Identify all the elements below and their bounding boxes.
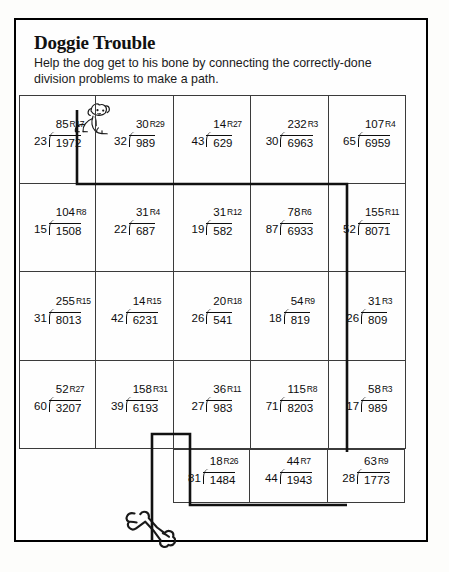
quotient: 63 xyxy=(364,455,377,467)
divisor: 26 xyxy=(346,306,359,324)
division-bracket: 98930R29 xyxy=(129,129,155,149)
remainder: R31 xyxy=(153,384,168,394)
division-problem-r4c5: 1798958R3 xyxy=(329,394,405,414)
quotient: 85 xyxy=(56,118,69,130)
remainder: R11 xyxy=(227,384,241,394)
divisor: 44 xyxy=(265,466,278,484)
divisor: 15 xyxy=(34,217,47,235)
grid-cell-r3-c5[interactable]: 2680931R3 xyxy=(329,272,406,361)
division-bracket: 80931R3 xyxy=(361,306,387,326)
grid-cell-r3-c2[interactable]: 42623114R15 xyxy=(96,272,173,361)
remainder: R12 xyxy=(227,207,242,217)
grid-cell-r3-c3[interactable]: 2654120R18 xyxy=(174,272,251,361)
remainder: R3 xyxy=(308,119,318,129)
division-bracket: 62914R27 xyxy=(206,129,232,149)
dividend: 1508 xyxy=(49,223,82,237)
dividend: 6963 xyxy=(280,135,313,149)
dividend: 3207 xyxy=(49,400,82,414)
grid-cell-r2-c4[interactable]: 87693378R6 xyxy=(251,184,328,273)
bottom-cell-3[interactable]: 28177363R9 xyxy=(328,449,405,503)
dividend: 1943 xyxy=(280,472,313,486)
grid-cell-r2-c5[interactable]: 528071155R11 xyxy=(329,184,406,273)
division-bracket: 1508104R8 xyxy=(49,217,82,237)
grid-cell-r3-c1[interactable]: 318013255R15 xyxy=(19,272,96,361)
grid-cell-r3-c4[interactable]: 1881954R9 xyxy=(251,272,328,361)
grid-cell-r1-c5[interactable]: 656959107R4 xyxy=(329,95,406,184)
division-problem-b3: 28177363R9 xyxy=(328,466,404,486)
quotient: 115 xyxy=(287,383,305,395)
grid-cell-r1-c2[interactable]: 3298930R29 xyxy=(96,95,173,184)
remainder: R3 xyxy=(382,384,392,394)
divisor: 87 xyxy=(266,217,279,235)
dividend: 582 xyxy=(206,223,232,237)
quotient: 107 xyxy=(365,118,384,130)
division-problem-r1c3: 4362914R27 xyxy=(174,129,250,149)
grid-cell-r2-c2[interactable]: 2268731R4 xyxy=(96,184,173,273)
remainder: R17 xyxy=(70,119,85,129)
quotient-answer: 232R3 xyxy=(287,118,317,130)
grid-cell-r4-c3[interactable]: 2798336R11 xyxy=(174,361,251,450)
division-bracket: 8071155R11 xyxy=(358,217,391,237)
grid-cell-r1-c3[interactable]: 4362914R27 xyxy=(174,95,251,184)
page-title: Doggie Trouble xyxy=(34,32,155,54)
grid-cell-r1-c4[interactable]: 306963232R3 xyxy=(251,95,328,184)
quotient-answer: 14R27 xyxy=(213,118,242,130)
grid-cell-r4-c4[interactable]: 718203115R8 xyxy=(251,361,328,450)
division-problem-r3c5: 2680931R3 xyxy=(329,306,405,326)
grid-cell-r2-c1[interactable]: 151508104R8 xyxy=(19,184,96,273)
dividend: 989 xyxy=(361,400,387,414)
divisor: 71 xyxy=(266,394,279,412)
bottom-cell-2[interactable]: 44194344R7 xyxy=(250,449,327,503)
division-problem-r4c3: 2798336R11 xyxy=(174,394,250,414)
dividend: 6959 xyxy=(358,135,391,149)
remainder: R11 xyxy=(385,207,399,217)
division-problem-r2c5: 528071155R11 xyxy=(329,217,405,237)
quotient-answer: 14R15 xyxy=(133,295,162,307)
bottom-cell-1[interactable]: 81148418R26 xyxy=(173,449,250,503)
divisor: 17 xyxy=(346,394,359,412)
divisor: 39 xyxy=(111,394,124,412)
grid-cell-r1-c1[interactable]: 23197285R17 xyxy=(19,95,96,184)
quotient-answer: 158R31 xyxy=(133,383,168,395)
quotient: 54 xyxy=(291,295,304,307)
remainder: R4 xyxy=(150,207,160,217)
quotient-answer: 20R18 xyxy=(213,295,242,307)
division-problem-r4c4: 718203115R8 xyxy=(251,394,327,414)
quotient-answer: 155R11 xyxy=(365,206,399,218)
division-bracket: 68731R4 xyxy=(129,217,155,237)
division-bracket: 98336R11 xyxy=(206,394,232,414)
division-bracket: 194344R7 xyxy=(280,466,313,486)
grid-cell-r4-c1[interactable]: 60320752R27 xyxy=(19,361,96,450)
remainder: R9 xyxy=(304,296,314,306)
division-problem-r1c1: 23197285R17 xyxy=(20,129,95,149)
divisor: 52 xyxy=(343,217,356,235)
remainder: R26 xyxy=(224,456,239,466)
grid-cell-r4-c2[interactable]: 396193158R31 xyxy=(96,361,173,450)
quotient-answer: 107R4 xyxy=(365,118,395,130)
dividend: 1773 xyxy=(357,472,390,486)
instructions-text: Help the dog get to his bone by connecti… xyxy=(34,56,404,87)
division-bracket: 148418R26 xyxy=(203,466,236,486)
division-bracket: 54120R18 xyxy=(206,306,232,326)
quotient-answer: 18R26 xyxy=(210,455,239,467)
division-bracket: 81954R9 xyxy=(284,306,310,326)
divisor: 65 xyxy=(343,129,356,147)
grid-cell-r2-c3[interactable]: 1958231R12 xyxy=(174,184,251,273)
grid-cell-r4-c5[interactable]: 1798958R3 xyxy=(329,361,406,450)
division-problem-r3c3: 2654120R18 xyxy=(174,306,250,326)
problem-grid: 23197285R173298930R294362914R27306963232… xyxy=(19,95,406,449)
dividend: 629 xyxy=(206,135,232,149)
quotient: 155 xyxy=(365,206,384,218)
remainder: R6 xyxy=(301,207,311,217)
remainder: R8 xyxy=(76,207,86,217)
dividend: 6193 xyxy=(126,400,159,414)
division-problem-r1c2: 3298930R29 xyxy=(96,129,172,149)
division-problem-r2c4: 87693378R6 xyxy=(251,217,327,237)
remainder: R4 xyxy=(385,119,395,129)
divisor: 30 xyxy=(266,129,279,147)
dividend: 6933 xyxy=(280,223,313,237)
quotient-answer: 31R3 xyxy=(368,295,392,307)
quotient: 104 xyxy=(56,206,75,218)
quotient-answer: 44R7 xyxy=(287,455,311,467)
remainder: R8 xyxy=(307,384,317,394)
